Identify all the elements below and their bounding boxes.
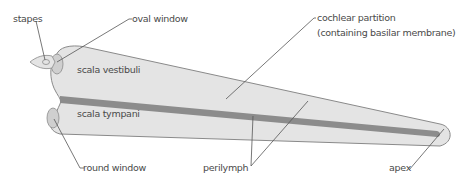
perilymph-label: perilymph xyxy=(203,162,249,173)
cochlea-diagram: stapes oval window cochlear partition (c… xyxy=(0,0,461,184)
stapes-leader xyxy=(36,21,45,60)
scala-tympani-label: scala tympani xyxy=(77,108,140,119)
round-window-label: round window xyxy=(83,162,147,173)
oval-window-label: oval window xyxy=(132,13,188,24)
apex-label: apex xyxy=(389,162,412,173)
cochlear-partition-label-line2: (containing basilar membrane) xyxy=(317,27,456,38)
stapes-label: stapes xyxy=(13,13,43,24)
scala-vestibuli-label: scala vestibuli xyxy=(77,64,140,75)
cochlear-partition-label-line1: cochlear partition xyxy=(317,12,396,23)
